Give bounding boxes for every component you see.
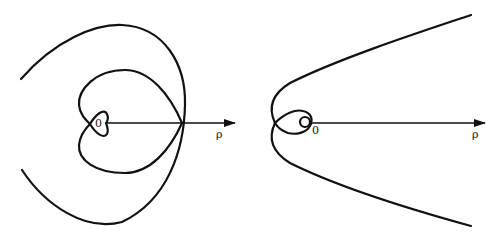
right-inner-circle: [300, 117, 310, 127]
right-loop: [275, 111, 312, 134]
right-upper-branch: [272, 15, 471, 123]
right-diagram: 0 ρ: [272, 15, 485, 226]
left-rho-label: ρ: [216, 128, 222, 141]
diagram-svg: 0 ρ 0 ρ: [0, 0, 499, 246]
diagram-canvas: 0 ρ 0 ρ: [0, 0, 499, 246]
left-origin-label: 0: [95, 117, 102, 130]
right-origin-label: 0: [312, 124, 319, 137]
right-lower-branch: [272, 123, 471, 226]
left-outer-curve: [21, 25, 185, 224]
left-diagram: 0 ρ: [21, 25, 235, 224]
right-rho-label: ρ: [472, 128, 478, 141]
